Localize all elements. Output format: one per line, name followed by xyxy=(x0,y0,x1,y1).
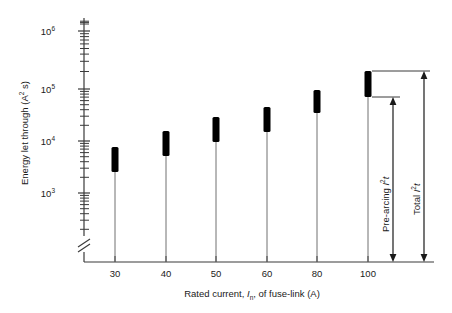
x-tick-label-100: 100 xyxy=(360,268,376,279)
total-arrowhead-down xyxy=(421,254,428,262)
data-series-group xyxy=(112,71,372,262)
axis-break-icon xyxy=(78,239,90,252)
x-tick-label-60: 60 xyxy=(262,268,273,279)
pre-arcing-label: Pre-arcing I2t xyxy=(379,176,391,232)
figure-canvas: 106 105 104 103 Energy let through (A2 s… xyxy=(0,0,452,313)
x-tick-label-50: 50 xyxy=(211,268,222,279)
y-tick-label-1e3: 103 xyxy=(41,187,56,199)
bar-80 xyxy=(314,90,321,262)
pre-arcing-arrowhead-up xyxy=(390,97,397,105)
bar-30 xyxy=(112,147,119,262)
x-tick-label-80: 80 xyxy=(312,268,323,279)
x-axis-tick-labels: 30 40 50 60 80 100 xyxy=(110,268,376,279)
pre-arcing-arrowhead-down xyxy=(390,254,397,262)
y-axis: 106 105 104 103 Energy let through (A2 s… xyxy=(18,18,90,262)
x-tick-label-30: 30 xyxy=(110,268,121,279)
annotation-total: Total I2t xyxy=(410,71,427,262)
total-arrowhead-up xyxy=(421,71,428,79)
annotation-pre-arcing: Pre-arcing I2t xyxy=(379,97,396,262)
bar-40 xyxy=(163,131,170,262)
bar-50 xyxy=(213,117,220,262)
x-axis-ticks xyxy=(115,256,368,262)
y-tick-label-1e5: 105 xyxy=(41,83,56,95)
x-axis-title: Rated current, In, of fuse-link (A) xyxy=(184,288,320,301)
total-label: Total I2t xyxy=(410,183,422,215)
y-tick-label-1e4: 104 xyxy=(41,135,56,147)
annotation-leader-lines xyxy=(372,71,430,97)
bar-100 xyxy=(365,71,372,262)
y-tick-label-1e6: 106 xyxy=(41,25,56,37)
x-tick-label-40: 40 xyxy=(161,268,172,279)
y-axis-tick-labels: 106 105 104 103 xyxy=(41,25,56,199)
chart-svg: 106 105 104 103 Energy let through (A2 s… xyxy=(0,0,452,313)
y-axis-title: Energy let through (A2 s) xyxy=(18,81,30,185)
x-axis: 30 40 50 60 80 100 Rated current, In, of… xyxy=(84,256,434,301)
bar-60 xyxy=(264,107,271,262)
